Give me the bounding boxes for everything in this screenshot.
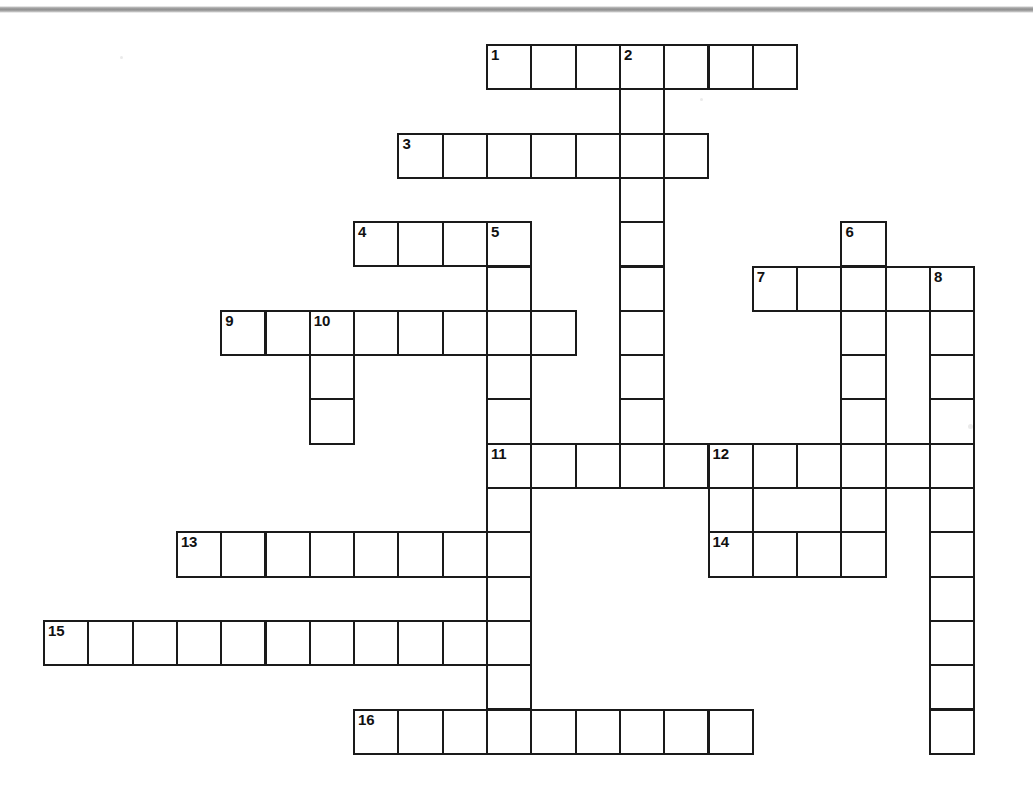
crossword-cell-numbered-16[interactable]: 16 <box>353 709 399 755</box>
crossword-cell[interactable] <box>619 709 665 755</box>
crossword-cell[interactable] <box>929 398 975 444</box>
crossword-cell[interactable] <box>442 620 488 666</box>
crossword-cell[interactable] <box>619 443 665 489</box>
crossword-cell[interactable] <box>752 44 798 90</box>
crossword-cell[interactable] <box>619 354 665 400</box>
crossword-cell[interactable] <box>220 620 266 666</box>
crossword-cell[interactable] <box>132 620 178 666</box>
crossword-cell[interactable] <box>663 44 709 90</box>
crossword-cell-numbered-5[interactable]: 5 <box>486 221 532 267</box>
crossword-cell[interactable] <box>663 133 709 179</box>
crossword-cell[interactable] <box>309 398 355 444</box>
crossword-cell[interactable] <box>619 88 665 134</box>
crossword-cell[interactable] <box>309 531 355 577</box>
crossword-cell[interactable] <box>708 709 754 755</box>
crossword-cell-numbered-15[interactable]: 15 <box>43 620 89 666</box>
crossword-cell[interactable] <box>486 531 532 577</box>
crossword-cell[interactable] <box>575 443 621 489</box>
crossword-cell[interactable] <box>840 266 886 312</box>
crossword-cell[interactable] <box>929 310 975 356</box>
crossword-cell[interactable] <box>929 664 975 710</box>
crossword-cell[interactable] <box>397 531 443 577</box>
crossword-cell[interactable] <box>575 133 621 179</box>
crossword-cell[interactable] <box>486 398 532 444</box>
crossword-cell[interactable] <box>353 310 399 356</box>
crossword-cell-numbered-7[interactable]: 7 <box>752 266 798 312</box>
crossword-cell[interactable] <box>796 531 842 577</box>
crossword-cell[interactable] <box>840 443 886 489</box>
crossword-cell[interactable] <box>708 44 754 90</box>
crossword-cell[interactable] <box>840 487 886 533</box>
crossword-cell[interactable] <box>575 44 621 90</box>
crossword-cell-numbered-1[interactable]: 1 <box>486 44 532 90</box>
crossword-cell[interactable] <box>752 531 798 577</box>
crossword-cell[interactable] <box>309 620 355 666</box>
crossword-cell[interactable] <box>265 620 311 666</box>
crossword-cell[interactable] <box>486 133 532 179</box>
crossword-cell[interactable] <box>619 177 665 223</box>
crossword-cell[interactable] <box>442 310 488 356</box>
crossword-cell[interactable] <box>486 576 532 622</box>
crossword-cell[interactable] <box>486 664 532 710</box>
crossword-cell[interactable] <box>752 443 798 489</box>
crossword-cell[interactable] <box>929 576 975 622</box>
crossword-cell[interactable] <box>840 398 886 444</box>
crossword-cell[interactable] <box>353 620 399 666</box>
crossword-cell[interactable] <box>486 620 532 666</box>
crossword-cell[interactable] <box>619 221 665 267</box>
crossword-cell-numbered-13[interactable]: 13 <box>176 531 222 577</box>
crossword-cell[interactable] <box>176 620 222 666</box>
crossword-cell-numbered-4[interactable]: 4 <box>353 221 399 267</box>
crossword-cell[interactable] <box>619 398 665 444</box>
crossword-cell[interactable] <box>885 443 931 489</box>
crossword-cell-numbered-9[interactable]: 9 <box>220 310 266 356</box>
crossword-cell-numbered-6[interactable]: 6 <box>840 221 886 267</box>
crossword-cell[interactable] <box>353 531 399 577</box>
crossword-cell[interactable] <box>663 443 709 489</box>
crossword-cell-numbered-10[interactable]: 10 <box>309 310 355 356</box>
crossword-cell[interactable] <box>486 709 532 755</box>
crossword-cell[interactable] <box>87 620 133 666</box>
crossword-cell[interactable] <box>663 709 709 755</box>
crossword-cell[interactable] <box>929 531 975 577</box>
crossword-cell[interactable] <box>265 531 311 577</box>
crossword-cell[interactable] <box>530 443 576 489</box>
crossword-cell[interactable] <box>929 709 975 755</box>
crossword-cell[interactable] <box>442 133 488 179</box>
crossword-cell[interactable] <box>796 443 842 489</box>
crossword-cell[interactable] <box>309 354 355 400</box>
crossword-cell-numbered-2[interactable]: 2 <box>619 44 665 90</box>
crossword-cell[interactable] <box>486 487 532 533</box>
crossword-cell[interactable] <box>530 44 576 90</box>
crossword-cell[interactable] <box>840 354 886 400</box>
crossword-cell[interactable] <box>929 620 975 666</box>
crossword-cell[interactable] <box>442 221 488 267</box>
crossword-cell-numbered-14[interactable]: 14 <box>708 531 754 577</box>
crossword-cell[interactable] <box>796 266 842 312</box>
crossword-cell[interactable] <box>265 310 311 356</box>
crossword-cell[interactable] <box>530 310 576 356</box>
crossword-cell[interactable] <box>929 354 975 400</box>
crossword-cell[interactable] <box>397 709 443 755</box>
crossword-cell[interactable] <box>486 354 532 400</box>
crossword-cell[interactable] <box>397 310 443 356</box>
crossword-grid[interactable]: 12345678910111213141516 <box>0 0 1033 792</box>
crossword-cell[interactable] <box>397 620 443 666</box>
crossword-cell[interactable] <box>619 310 665 356</box>
crossword-cell[interactable] <box>397 221 443 267</box>
crossword-cell-numbered-3[interactable]: 3 <box>397 133 443 179</box>
crossword-cell[interactable] <box>840 310 886 356</box>
crossword-cell[interactable] <box>530 133 576 179</box>
crossword-cell-numbered-8[interactable]: 8 <box>929 266 975 312</box>
crossword-cell[interactable] <box>442 531 488 577</box>
crossword-cell[interactable] <box>575 709 621 755</box>
crossword-cell[interactable] <box>885 266 931 312</box>
crossword-cell[interactable] <box>486 310 532 356</box>
crossword-cell[interactable] <box>486 266 532 312</box>
crossword-cell[interactable] <box>840 531 886 577</box>
crossword-cell[interactable] <box>619 266 665 312</box>
crossword-cell[interactable] <box>220 531 266 577</box>
crossword-cell[interactable] <box>929 443 975 489</box>
crossword-cell[interactable] <box>619 133 665 179</box>
crossword-cell[interactable] <box>708 487 754 533</box>
